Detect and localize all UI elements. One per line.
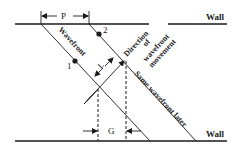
- wavefront-diagram: Wall Wall P Wavefront Same wavefront lat…: [0, 0, 245, 164]
- point-2-dot: [96, 31, 101, 36]
- point-2-label: 2: [103, 25, 108, 35]
- top-wall-label: Wall: [206, 12, 225, 22]
- direction-label: Direction of wavefront movement: [122, 29, 178, 70]
- bottom-wall-label: Wall: [206, 129, 225, 139]
- point-1-label: 1: [67, 61, 72, 71]
- wavefront-label: Wavefront: [57, 25, 89, 58]
- gap-label: G: [108, 126, 115, 136]
- distance-arrow: L: [95, 58, 113, 76]
- later-wavefront-label: Same wavefront later: [133, 69, 190, 129]
- point-1-dot: [72, 58, 77, 63]
- distance-label: L: [96, 61, 106, 71]
- period-bracket: P: [41, 11, 89, 24]
- top-wall: Wall: [15, 12, 227, 24]
- gap-indicator: G: [83, 126, 141, 136]
- bottom-wall: Wall: [15, 129, 227, 141]
- period-label: P: [61, 11, 66, 21]
